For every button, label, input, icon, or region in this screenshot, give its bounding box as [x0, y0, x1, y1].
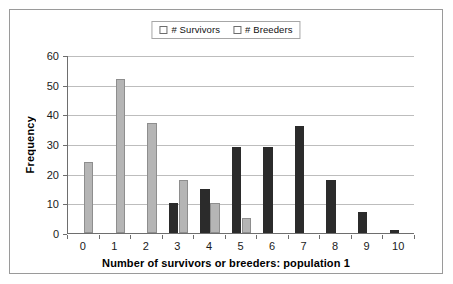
light-square-swatch — [233, 26, 241, 34]
bar-breeders-2 — [147, 123, 156, 233]
x-tick-mark — [193, 235, 194, 239]
x-tick-mark — [382, 235, 383, 239]
y-tick-label: 30 — [33, 139, 59, 151]
plot-area — [67, 56, 414, 234]
x-tick-mark — [162, 235, 163, 239]
x-tick-mark — [351, 235, 352, 239]
x-tick-label: 1 — [111, 240, 117, 252]
y-tick-label: 50 — [33, 80, 59, 92]
bar-breeders-1 — [116, 79, 125, 233]
chart-frame: # Survivors # Breeders Frequency 0102030… — [9, 9, 443, 274]
bar-survivors-3 — [169, 203, 178, 233]
x-tick-mark — [414, 235, 415, 239]
x-tick-label: 7 — [301, 240, 307, 252]
x-tick-label: 0 — [80, 240, 86, 252]
x-tick-mark — [288, 235, 289, 239]
bar-breeders-3 — [179, 180, 188, 233]
x-tick-label: 3 — [174, 240, 180, 252]
bar-breeders-4 — [210, 203, 219, 233]
x-tick-mark — [99, 235, 100, 239]
legend-label-breeders: # Breeders — [245, 24, 292, 35]
x-tick-label: 10 — [392, 240, 404, 252]
y-tick-label: 10 — [33, 198, 59, 210]
y-tick-label: 20 — [33, 169, 59, 181]
gridline — [68, 56, 414, 57]
x-axis-title: Number of survivors or breeders: populat… — [10, 257, 442, 269]
bar-breeders-0 — [84, 162, 93, 233]
x-tick-mark — [67, 235, 68, 239]
bar-survivors-9 — [358, 212, 367, 233]
y-tick-label: 0 — [33, 228, 59, 240]
chart-legend: # Survivors # Breeders — [151, 21, 300, 39]
x-tick-label: 5 — [237, 240, 243, 252]
bar-survivors-10 — [390, 230, 399, 233]
x-tick-label: 6 — [269, 240, 275, 252]
bar-survivors-6 — [263, 147, 272, 233]
x-tick-label: 4 — [206, 240, 212, 252]
bar-breeders-5 — [242, 218, 251, 233]
bar-survivors-4 — [200, 189, 209, 234]
legend-entry-breeders: # Breeders — [233, 24, 292, 35]
x-tick-mark — [225, 235, 226, 239]
x-tick-mark — [319, 235, 320, 239]
dark-square-swatch — [159, 26, 167, 34]
x-tick-label: 9 — [364, 240, 370, 252]
x-tick-mark — [130, 235, 131, 239]
x-tick-label: 2 — [143, 240, 149, 252]
bar-survivors-7 — [295, 126, 304, 233]
bar-survivors-8 — [326, 180, 335, 233]
x-tick-mark — [256, 235, 257, 239]
legend-label-survivors: # Survivors — [171, 24, 220, 35]
y-tick-label: 40 — [33, 109, 59, 121]
y-tick-label: 60 — [33, 50, 59, 62]
legend-entry-survivors: # Survivors — [159, 24, 220, 35]
x-tick-label: 8 — [332, 240, 338, 252]
bar-survivors-5 — [232, 147, 241, 233]
